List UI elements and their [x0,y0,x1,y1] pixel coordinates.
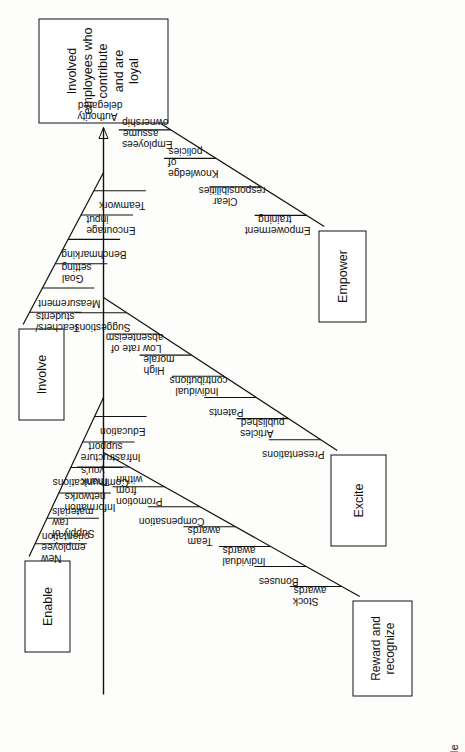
cause-label: Authority delegated [77,99,129,120]
cause-label: Empowerment training [258,212,310,233]
figure-caption: Figure 15-9. Employee Development and Re… [447,744,459,752]
cause-label: Clear responsibilities [213,184,265,205]
cause-label: Benchmarking [74,247,126,258]
fishbone-diagram-rotated-wrapper: Involved employees who contribute and ar… [0,0,465,752]
cause-label: Education [100,424,152,435]
cause-label: Measurement [48,296,100,307]
figure-title: Employee Development and Retention Examp… [447,744,459,752]
cause-label: Stock awards [293,584,345,605]
cause-label: Employees assume ownership [122,116,174,148]
cause-label: Encourage input [86,212,138,233]
fishbone-diagram: Involved employees who contribute and ar… [0,0,465,752]
cause-label: Individual awards [222,544,274,565]
cause-label: Suggestions [78,321,130,332]
cause-label: Teamwork [99,199,151,210]
category-box-reward-and-recognize: Reward and recognize [352,600,412,696]
cause-label: Low rate of absenteeism [111,331,163,352]
cause-label: High morale [143,352,195,373]
cause-label: Knowledge of policies [168,145,220,177]
category-box-involve: Involve [18,328,64,420]
cause-label: New employee orientation [41,530,93,562]
cause-label: Team awards [187,524,239,545]
figure-canvas: Involved employees who contribute and ar… [0,0,465,752]
category-box-enable: Enable [24,560,70,652]
cause-label: Individual contributions [175,373,227,394]
cause-label: Articles published [240,416,292,437]
cause-label: Presentations [272,448,324,459]
cause-label: Promotion from within [116,473,168,505]
cause-label: Goal setting [61,261,113,282]
cause-label: Infrastructure support [88,439,140,460]
category-box-empower: Empower [318,230,366,322]
category-box-excite: Excite [330,454,386,546]
cause-label: Patents [208,405,260,416]
